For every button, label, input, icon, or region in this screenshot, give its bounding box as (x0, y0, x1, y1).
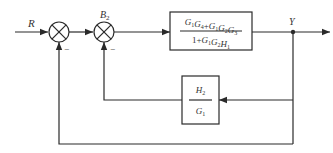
minus-sign: − (110, 44, 115, 54)
outer-feedback-path (59, 42, 293, 144)
forward-transfer-block: G1G4+G1G2G3 1+G1G2H1 (170, 12, 252, 50)
inner-feedback-path (104, 42, 182, 100)
output-label: Y (289, 16, 296, 27)
input-label: R (27, 17, 35, 29)
junction-label: B2 (100, 9, 110, 22)
input-signal: R (15, 17, 48, 32)
minus-sign: − (64, 44, 69, 54)
block-diagram: R − B2 − G1G4+G1G2G3 1+G1G2H1 Y H2 G1 (0, 0, 333, 153)
feedback-transfer-block: H2 G1 (182, 76, 219, 124)
